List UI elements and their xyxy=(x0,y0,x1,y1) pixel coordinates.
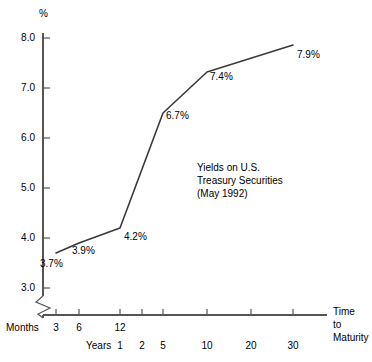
x-tick-label-5-years: 5 xyxy=(160,340,166,352)
x-tick-label-2-years: 2 xyxy=(139,340,145,352)
yield-curve-chart: % 8.0 7.0 6.0 5.0 4.0 3.0 3.7% 3.9% 4.2%… xyxy=(0,0,372,362)
x-tick-label-30-years: 30 xyxy=(287,340,298,352)
x-axis-row-label-months: Months xyxy=(6,322,39,334)
y-tick-label-3: 3.0 xyxy=(9,282,35,294)
y-tick-label-7: 7.0 xyxy=(9,82,35,94)
x-tick-label-20-years: 20 xyxy=(245,340,256,352)
x-tick-label-6-months: 6 xyxy=(76,322,82,334)
data-label-7-9: 7.9% xyxy=(297,49,320,61)
yield-curve-line xyxy=(56,45,293,253)
y-axis-unit-label: % xyxy=(39,8,48,20)
y-tick-label-5: 5.0 xyxy=(9,182,35,194)
x-tick-label-10-years: 10 xyxy=(201,340,212,352)
data-label-3-7: 3.7% xyxy=(40,258,63,270)
chart-annotation-line-2: Treasury Securities xyxy=(197,174,283,187)
x-tick-label-1-year: 1 xyxy=(117,340,123,352)
y-tick-label-4: 4.0 xyxy=(9,232,35,244)
x-axis-row-label-years: Years xyxy=(86,340,111,352)
x-tick-label-3-months: 3 xyxy=(53,322,59,334)
data-label-6-7: 6.7% xyxy=(166,110,189,122)
y-tick-label-6: 6.0 xyxy=(9,132,35,144)
x-axis-title-line-3: Maturity xyxy=(333,331,369,344)
chart-annotation-line-3: (May 1992) xyxy=(197,187,248,200)
x-tick-label-12-months: 12 xyxy=(114,322,125,334)
x-axis-title-line-2: to xyxy=(333,318,341,331)
data-label-7-4: 7.4% xyxy=(210,71,233,83)
x-axis-title-line-1: Time xyxy=(333,305,355,318)
y-tick-label-8: 8.0 xyxy=(9,32,35,44)
chart-annotation-line-1: Yields on U.S. xyxy=(197,161,260,174)
data-label-3-9: 3.9% xyxy=(72,245,95,257)
data-label-4-2: 4.2% xyxy=(124,231,147,243)
